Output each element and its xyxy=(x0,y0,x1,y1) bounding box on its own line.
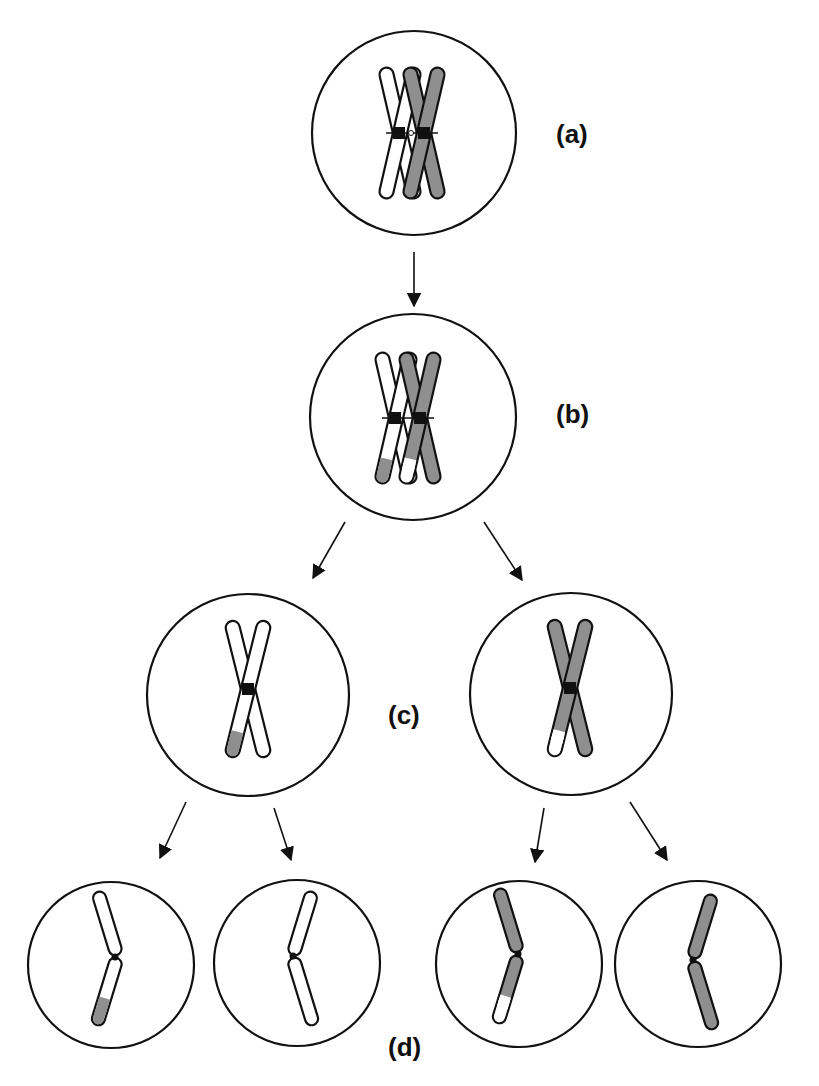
centromere xyxy=(112,954,119,961)
centromere xyxy=(564,682,576,694)
stage-d-cell-3 xyxy=(436,881,602,1047)
meiosis-diagram: (a) (b) xyxy=(0,0,819,1086)
centromere xyxy=(242,683,254,695)
centromere xyxy=(690,957,697,964)
stage-a-cell xyxy=(312,31,516,235)
arrow-c-to-d-3 xyxy=(535,808,544,862)
stage-d-cell-4 xyxy=(615,881,781,1047)
arrow-b-to-c-right xyxy=(484,522,522,580)
stage-label-c: (c) xyxy=(388,700,420,730)
centromere xyxy=(515,951,522,958)
stage-label-a: (a) xyxy=(556,119,588,149)
stage-c-cell-right xyxy=(470,593,672,795)
stage-b-cell xyxy=(310,314,516,520)
stage-d-cell-1 xyxy=(28,882,194,1048)
centromere xyxy=(290,953,297,960)
stage-c-cell-left xyxy=(147,594,349,796)
stage-label-b: (b) xyxy=(556,399,589,429)
arrow-b-to-c-left xyxy=(313,522,345,578)
arrow-c-to-d-4 xyxy=(630,802,667,860)
arrow-c-to-d-1 xyxy=(160,802,186,858)
stage-d-cell-2 xyxy=(214,880,380,1046)
stage-label-d: (d) xyxy=(388,1032,421,1062)
arrow-c-to-d-2 xyxy=(274,808,291,860)
